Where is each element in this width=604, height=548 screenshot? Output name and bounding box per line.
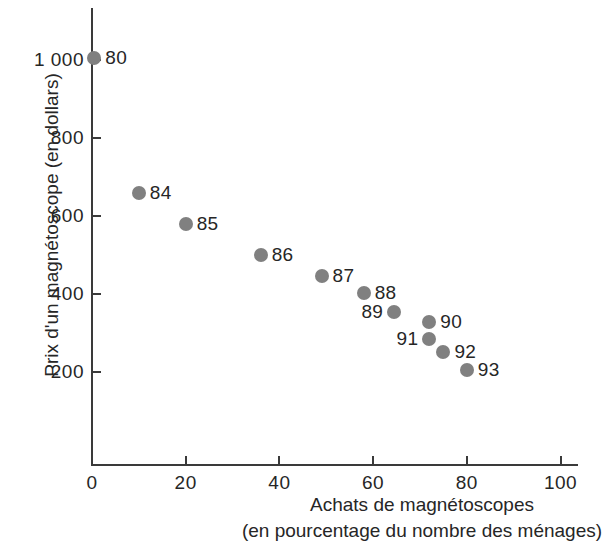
y-tick-mark xyxy=(92,215,101,217)
data-point xyxy=(422,332,436,346)
y-tick-mark xyxy=(92,137,101,139)
x-axis-title: Achats de magnétoscopes (en pourcentage … xyxy=(240,492,604,544)
x-tick-mark xyxy=(560,456,562,465)
x-tick-label: 20 xyxy=(156,472,216,494)
data-point-label: 89 xyxy=(361,301,383,323)
y-tick-mark xyxy=(92,371,101,373)
y-axis-line xyxy=(91,8,93,466)
data-point xyxy=(387,305,401,319)
y-tick-mark xyxy=(92,293,101,295)
data-point-label: 84 xyxy=(150,182,172,204)
x-tick-label: 0 xyxy=(62,472,122,494)
x-tick-label: 100 xyxy=(531,472,591,494)
y-axis-title: Prix d'un magnétoscope (en dollars) xyxy=(41,35,63,415)
x-tick-mark xyxy=(466,456,468,465)
data-point xyxy=(422,315,436,329)
data-point-label: 90 xyxy=(440,311,462,333)
x-axis-line xyxy=(91,464,578,466)
x-axis-title-line2: (en pourcentage du nombre des ménages) xyxy=(240,518,604,544)
data-point xyxy=(254,248,268,262)
x-tick-mark xyxy=(278,456,280,465)
data-point-label: 85 xyxy=(197,213,219,235)
data-point-label: 87 xyxy=(333,265,355,287)
data-point-label: 93 xyxy=(478,359,500,381)
data-point-label: 80 xyxy=(105,47,127,69)
x-tick-label: 60 xyxy=(343,472,403,494)
data-point xyxy=(436,345,450,359)
data-point xyxy=(460,363,474,377)
x-tick-mark xyxy=(372,456,374,465)
x-tick-label: 80 xyxy=(437,472,497,494)
data-point xyxy=(315,269,329,283)
data-point-label: 91 xyxy=(397,328,419,350)
data-point xyxy=(87,51,101,65)
x-axis-title-line1: Achats de magnétoscopes xyxy=(240,492,604,518)
data-point xyxy=(357,286,371,300)
data-point xyxy=(132,186,146,200)
scatter-chart: 2004006008001 000 020406080100 808485868… xyxy=(0,0,604,548)
data-point xyxy=(179,217,193,231)
data-point-label: 86 xyxy=(272,244,294,266)
data-point-label: 92 xyxy=(454,341,476,363)
x-tick-mark xyxy=(185,456,187,465)
x-tick-label: 40 xyxy=(249,472,309,494)
